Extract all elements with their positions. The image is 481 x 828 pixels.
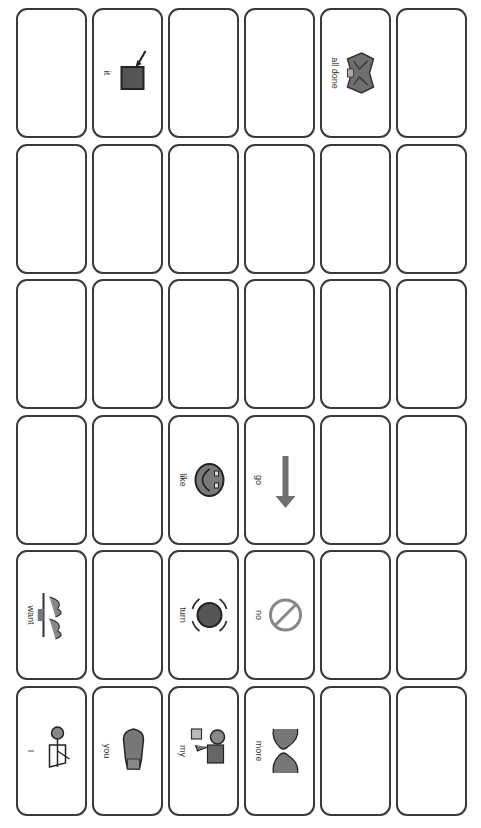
cell-content: turn: [170, 552, 237, 678]
symbol-label: go: [254, 474, 264, 484]
empty-symbol-slot[interactable]: [396, 415, 467, 545]
empty-symbol-slot[interactable]: [320, 415, 391, 545]
empty-symbol-slot[interactable]: [168, 8, 239, 138]
symbol-button-turn[interactable]: turn: [168, 550, 239, 680]
empty-symbol-slot[interactable]: [92, 550, 163, 680]
symbol-button-no[interactable]: no: [244, 550, 315, 680]
person-holding-box-icon: [190, 723, 230, 779]
cell-content: [94, 146, 161, 272]
more-hands-icon: [266, 723, 306, 779]
cell-content: you: [94, 688, 161, 814]
empty-symbol-slot[interactable]: [244, 279, 315, 409]
cell-content: [322, 552, 389, 678]
smiling-face-icon: [190, 452, 230, 508]
cell-content: [246, 146, 313, 272]
cell-content: [322, 281, 389, 407]
symbol-button-want[interactable]: want: [16, 550, 87, 680]
symbol-button-go[interactable]: go: [244, 415, 315, 545]
pointing-hand-icon: [114, 723, 154, 779]
cell-content: my: [170, 688, 237, 814]
cell-content: [398, 552, 465, 678]
empty-symbol-slot[interactable]: [396, 8, 467, 138]
empty-symbol-slot[interactable]: [320, 279, 391, 409]
cell-content: [170, 146, 237, 272]
cell-content: [398, 10, 465, 136]
cell-content: [18, 146, 85, 272]
cell-content: [94, 281, 161, 407]
cell-content: [322, 688, 389, 814]
symbol-label: turn: [178, 607, 188, 623]
empty-symbol-slot[interactable]: [92, 279, 163, 409]
cell-content: [170, 10, 237, 136]
cell-content: want: [18, 552, 85, 678]
communication-board: it all done like go want turn no I you m…: [0, 0, 481, 828]
want-hands-icon: [38, 587, 78, 643]
cell-content: [398, 281, 465, 407]
symbol-button-more[interactable]: more: [244, 686, 315, 816]
empty-symbol-slot[interactable]: [92, 144, 163, 274]
empty-symbol-slot[interactable]: [16, 279, 87, 409]
turn-circle-icon: [190, 587, 230, 643]
cell-content: [322, 146, 389, 272]
symbol-label: my: [178, 745, 188, 757]
empty-symbol-slot[interactable]: [320, 550, 391, 680]
symbol-button-my[interactable]: my: [168, 686, 239, 816]
arrow-pointing-square-icon: [114, 45, 154, 101]
cell-content: no: [246, 552, 313, 678]
empty-symbol-slot[interactable]: [396, 279, 467, 409]
cell-content: [246, 10, 313, 136]
symbol-label: I: [26, 749, 36, 752]
cell-content: [398, 417, 465, 543]
cell-content: go: [246, 417, 313, 543]
cell-content: [94, 552, 161, 678]
empty-symbol-slot[interactable]: [168, 279, 239, 409]
empty-symbol-slot[interactable]: [16, 415, 87, 545]
empty-symbol-slot[interactable]: [168, 144, 239, 274]
empty-symbol-slot[interactable]: [396, 686, 467, 816]
cell-content: all done: [322, 10, 389, 136]
symbol-button-all-done[interactable]: all done: [320, 8, 391, 138]
prohibited-icon: [266, 587, 306, 643]
symbol-label: all done: [330, 57, 340, 89]
symbol-label: it: [102, 71, 112, 76]
cell-content: [246, 281, 313, 407]
symbol-button-it[interactable]: it: [92, 8, 163, 138]
arrow-up-icon: [266, 452, 306, 508]
cell-content: like: [170, 417, 237, 543]
cell-content: [18, 281, 85, 407]
empty-symbol-slot[interactable]: [16, 144, 87, 274]
cell-content: more: [246, 688, 313, 814]
person-self-icon: [38, 723, 78, 779]
symbol-label: want: [26, 605, 36, 624]
symbol-label: like: [178, 473, 188, 487]
symbol-label: you: [102, 743, 112, 758]
empty-symbol-slot[interactable]: [244, 8, 315, 138]
cell-content: [322, 417, 389, 543]
empty-symbol-slot[interactable]: [320, 686, 391, 816]
cell-content: it: [94, 10, 161, 136]
all-done-hands-icon: [342, 45, 382, 101]
empty-symbol-slot[interactable]: [320, 144, 391, 274]
cell-content: [398, 146, 465, 272]
empty-symbol-slot[interactable]: [396, 144, 467, 274]
symbol-label: no: [254, 610, 264, 620]
empty-symbol-slot[interactable]: [16, 8, 87, 138]
symbol-button-you[interactable]: you: [92, 686, 163, 816]
symbol-button-i[interactable]: I: [16, 686, 87, 816]
empty-symbol-slot[interactable]: [244, 144, 315, 274]
empty-symbol-slot[interactable]: [92, 415, 163, 545]
cell-content: [18, 417, 85, 543]
cell-content: [170, 281, 237, 407]
cell-content: I: [18, 688, 85, 814]
symbol-button-like[interactable]: like: [168, 415, 239, 545]
cell-content: [94, 417, 161, 543]
cell-content: [398, 688, 465, 814]
symbol-label: more: [254, 740, 264, 761]
cell-content: [18, 10, 85, 136]
empty-symbol-slot[interactable]: [396, 550, 467, 680]
